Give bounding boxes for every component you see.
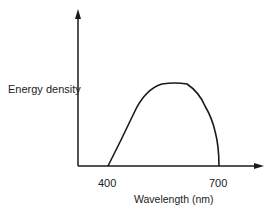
x-tick-400: 400 xyxy=(98,177,116,189)
energy-density-curve xyxy=(108,83,219,166)
y-axis-label: Energy density xyxy=(8,83,81,95)
chart-canvas xyxy=(0,0,277,213)
x-tick-700: 700 xyxy=(209,177,227,189)
y-axis-arrow-icon xyxy=(75,9,81,19)
x-axis-arrow-icon xyxy=(254,163,264,169)
x-axis-label: Wavelength (nm) xyxy=(134,193,214,205)
